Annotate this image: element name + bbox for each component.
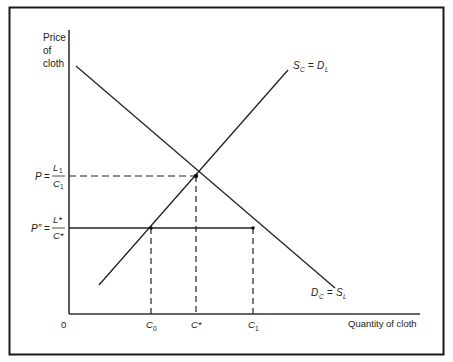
svg-text:1: 1 [59,167,63,174]
svg-text:L: L [53,162,58,173]
svg-text:C*: C* [53,230,64,241]
svg-text:0: 0 [153,325,157,332]
svg-text:L: L [325,66,329,73]
demand-curve [76,66,335,288]
origin-label: 0 [61,319,66,330]
svg-text:L: L [343,293,347,300]
svg-text:L*: L* [53,214,62,225]
svg-text:D: D [317,60,324,71]
point-c0 [149,226,153,230]
y-axis-label-line-3: cloth [43,58,64,69]
svg-text:C: C [300,66,305,73]
y-axis-label-line-2: of [43,45,52,56]
svg-text:C: C [53,178,60,189]
svg-text:=: = [44,223,50,234]
point-c1 [251,226,255,230]
supply-curve [99,70,288,285]
y-axis-label-line-1: Price [43,32,66,43]
svg-text:C: C [248,319,255,330]
svg-text:1: 1 [60,183,64,190]
svg-text:C: C [319,293,324,300]
svg-text:=: = [308,60,314,71]
svg-text:D: D [311,287,318,298]
svg-text:=: = [44,171,50,182]
x-axis-label: Quantity of cloth [348,318,417,329]
svg-text:P: P [35,171,42,182]
equilibrium-point [194,174,198,178]
svg-text:S: S [336,287,343,298]
svg-text:P″: P″ [31,223,42,234]
supply-curve-label: S C = D L [293,60,329,73]
svg-text:C*: C* [191,319,202,330]
diagram-canvas: Price of cloth 0 Quantity of cloth P = L… [0,0,453,362]
tick-label-c0: C 0 [146,319,157,332]
svg-text:C: C [146,319,153,330]
price-label-p-double-prime: P″ = L* C* [31,214,65,241]
diagram-frame [10,8,444,355]
tick-label-cstar: C* [191,319,202,330]
demand-curve-label: D C = S L [311,287,347,300]
price-label-p: P = L 1 C 1 [35,162,65,190]
svg-text:1: 1 [255,325,259,332]
svg-text:S: S [293,60,300,71]
tick-label-c1: C 1 [248,319,259,332]
svg-text:=: = [327,287,333,298]
